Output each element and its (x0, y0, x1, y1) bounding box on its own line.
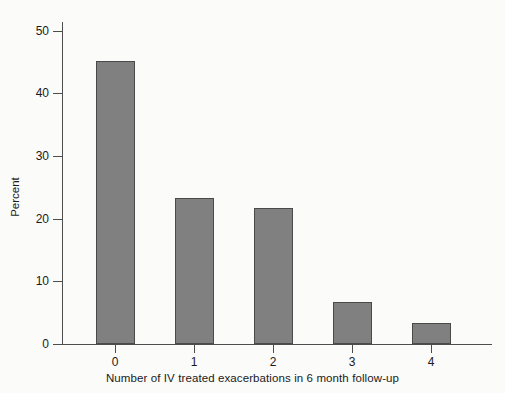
x-tick-label-0: 0 (95, 356, 135, 368)
x-tick-mark-4 (431, 345, 432, 353)
y-tick-mark-10 (53, 281, 62, 282)
bar-category-0[interactable] (96, 61, 135, 344)
y-tick-label-10: 10 (36, 275, 49, 287)
y-axis-line (62, 22, 63, 345)
x-tick-label-1: 1 (174, 356, 214, 368)
y-tick-label-20: 20 (36, 213, 49, 225)
bar-category-2[interactable] (254, 208, 293, 344)
x-tick-label-2: 2 (253, 356, 293, 368)
bar-category-3[interactable] (333, 302, 372, 344)
x-tick-mark-2 (273, 345, 274, 353)
x-axis-line (62, 344, 492, 345)
y-axis-title: Percent (6, 0, 24, 393)
x-tick-label-3: 3 (332, 356, 372, 368)
y-tick-label-30: 30 (36, 150, 49, 162)
x-tick-mark-3 (352, 345, 353, 353)
x-tick-label-4: 4 (411, 356, 451, 368)
bar-category-1[interactable] (175, 198, 214, 344)
bar-category-4[interactable] (412, 323, 451, 344)
y-tick-mark-30 (53, 156, 62, 157)
y-tick-label-40: 40 (36, 87, 49, 99)
x-tick-mark-0 (115, 345, 116, 353)
y-tick-label-0: 0 (42, 338, 49, 350)
y-tick-mark-50 (53, 31, 62, 32)
y-tick-label-50: 50 (36, 25, 49, 37)
bar-chart: 50 40 30 20 10 0 0 1 2 3 4 Number of IV … (0, 0, 505, 393)
y-tick-mark-20 (53, 219, 62, 220)
y-axis-title-text: Percent (9, 177, 21, 217)
x-tick-mark-1 (194, 345, 195, 353)
x-axis-title: Number of IV treated exacerbations in 6 … (0, 372, 505, 384)
y-tick-mark-40 (53, 93, 62, 94)
y-tick-mark-0 (53, 344, 62, 345)
